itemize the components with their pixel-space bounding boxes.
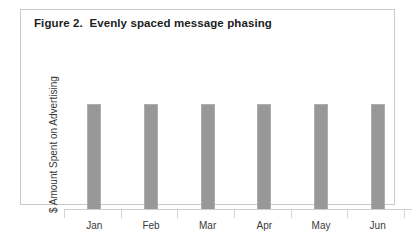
y-axis-label: $ Amount Spent on Advertising <box>48 73 61 213</box>
x-axis-tick <box>64 210 65 218</box>
x-axis-tick <box>347 210 348 218</box>
bar-jan <box>87 62 101 210</box>
x-axis-tick <box>177 210 178 218</box>
bar-jun <box>371 62 385 210</box>
x-axis-tick <box>291 210 292 218</box>
bar-rect <box>314 104 328 210</box>
bar-rect <box>371 104 385 210</box>
bar-feb <box>144 62 158 210</box>
bar-rect <box>201 104 215 210</box>
plot-area: $ Amount Spent on Advertising JanFebMarA… <box>43 40 388 196</box>
figure-frame: Figure 2. Evenly spaced message phasing … <box>20 9 395 205</box>
x-axis-tick <box>404 210 405 218</box>
bar-mar <box>201 62 215 210</box>
bar-rect <box>144 104 158 210</box>
bar-may <box>314 62 328 210</box>
bar-rect <box>87 104 101 210</box>
x-axis-tick <box>121 210 122 218</box>
chart-title: Figure 2. Evenly spaced message phasing <box>34 17 272 29</box>
bar-series <box>66 62 406 210</box>
x-axis-tick <box>234 210 235 218</box>
bar-rect <box>257 104 271 210</box>
bar-apr <box>257 62 271 210</box>
x-axis-line <box>64 209 412 210</box>
